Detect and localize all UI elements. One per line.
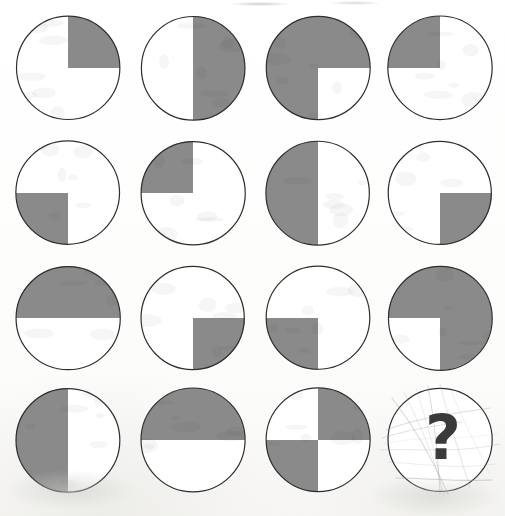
matrix-cell-r3c3 xyxy=(262,262,374,374)
quadrant-top-right-shaded xyxy=(318,16,370,68)
circle-r1c1 xyxy=(12,12,124,124)
matrix-cell-r1c2 xyxy=(137,12,249,124)
matrix-cell-r4c2 xyxy=(137,384,249,496)
matrix-cell-r1c3 xyxy=(262,12,374,124)
circle-r2c3 xyxy=(262,137,374,249)
matrix-cell-r3c2 xyxy=(137,262,249,374)
matrix-cell-r4c3 xyxy=(262,384,374,496)
circle-r3c4 xyxy=(384,262,496,374)
circle-r4c2 xyxy=(137,384,249,496)
circle-r2c2 xyxy=(137,137,249,249)
matrix-cell-r2c1 xyxy=(12,137,124,249)
matrix-cell-r2c2 xyxy=(137,137,249,249)
question-cell: ? xyxy=(384,384,496,496)
matrix-cell-r4c1 xyxy=(12,384,124,496)
circle-matrix-grid: ? xyxy=(0,0,505,516)
matrix-cell-r2c3 xyxy=(262,137,374,249)
circle-r2c4 xyxy=(384,137,496,249)
matrix-cell-r3c4 xyxy=(384,262,496,374)
circle-r3c3 xyxy=(262,262,374,374)
matrix-cell-r3c1 xyxy=(12,262,124,374)
matrix-cell-r1c1 xyxy=(12,12,124,124)
circle-r1c2 xyxy=(137,12,249,124)
matrix-cell-r1c4 xyxy=(384,12,496,124)
quadrant-top-right-shaded xyxy=(68,16,120,68)
question-mark-glyph: ? xyxy=(425,407,461,469)
matrix-cell-r2c4 xyxy=(384,137,496,249)
matrix-cell-r4c4: ? xyxy=(384,384,496,496)
circle-r4c1 xyxy=(12,384,124,496)
circle-r3c2 xyxy=(137,262,249,374)
circle-r4c3 xyxy=(262,384,374,496)
circle-r2c1 xyxy=(12,137,124,249)
quadrant-top-left-shaded xyxy=(266,141,318,193)
circle-r1c4 xyxy=(384,12,496,124)
quadrant-top-left-shaded xyxy=(388,16,440,68)
circle-r3c1 xyxy=(12,262,124,374)
quadrant-bottom-left-shaded xyxy=(266,193,318,245)
circle-r1c3 xyxy=(262,12,374,124)
